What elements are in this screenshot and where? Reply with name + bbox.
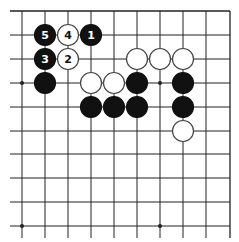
white-stone (173, 121, 194, 142)
black-stone: 1 (81, 25, 102, 46)
white-stone (150, 49, 171, 70)
move-number-label: 2 (64, 53, 72, 66)
black-stone (81, 97, 102, 118)
white-stone (104, 73, 125, 94)
white-stone (127, 49, 148, 70)
white-stone (173, 49, 194, 70)
white-stone (81, 73, 102, 94)
black-stone (127, 73, 148, 94)
move-number-label: 4 (64, 29, 72, 42)
star-point (158, 224, 162, 228)
black-stone: 5 (35, 25, 56, 46)
black-stone (35, 73, 56, 94)
star-point (20, 81, 24, 85)
star-point (158, 81, 162, 85)
white-stone: 2 (58, 49, 79, 70)
black-stone (173, 73, 194, 94)
star-point (20, 224, 24, 228)
move-number-label: 5 (41, 29, 49, 42)
black-stone (127, 97, 148, 118)
white-stone: 4 (58, 25, 79, 46)
go-board: 54132 (0, 0, 239, 242)
black-stone: 3 (35, 49, 56, 70)
move-number-label: 3 (41, 53, 49, 66)
black-stone (104, 97, 125, 118)
move-number-label: 1 (87, 29, 95, 42)
black-stone (173, 97, 194, 118)
